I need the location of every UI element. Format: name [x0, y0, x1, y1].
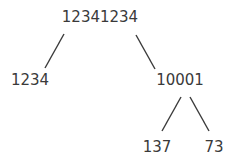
right-node: 10001 — [156, 73, 204, 88]
right-left-leaf: 137 — [143, 140, 172, 155]
root-node: 12341234 — [62, 10, 138, 25]
edge-right-73 — [190, 97, 209, 131]
edge-root-left — [45, 34, 64, 68]
left-node: 1234 — [11, 73, 49, 88]
edge-root-right — [136, 35, 155, 69]
edge-right-137 — [162, 97, 181, 131]
right-right-leaf: 73 — [204, 140, 223, 155]
